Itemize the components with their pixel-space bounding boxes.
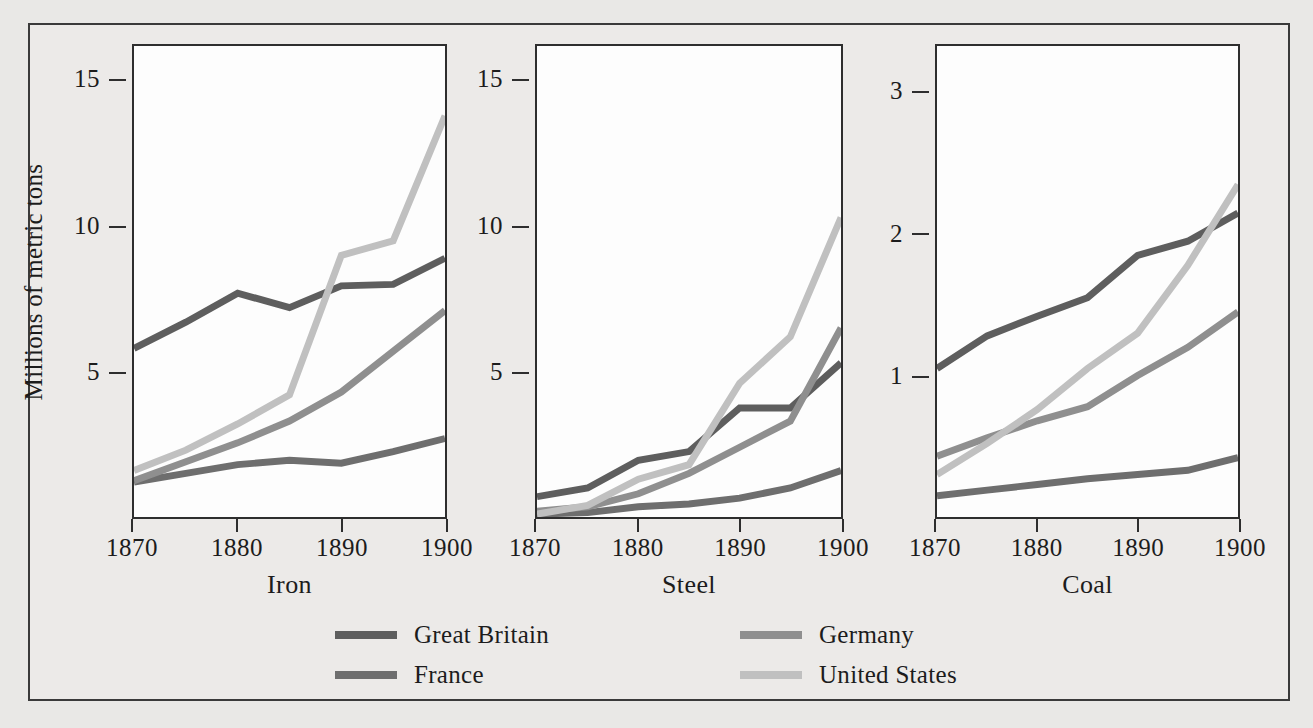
- x-tick-mark: [637, 519, 639, 532]
- x-tick-mark: [236, 519, 238, 532]
- x-tick-label: 1900: [421, 534, 473, 562]
- legend-swatch-germany: [740, 631, 802, 639]
- legend-swatch-france: [335, 671, 397, 679]
- panel-title-coal: Coal: [935, 570, 1240, 600]
- x-axis-ticks-iron: [132, 519, 447, 533]
- legend-column-1: Great BritainFrance: [335, 615, 549, 695]
- y-tick-label: 10: [74, 212, 126, 240]
- figure-panel: Millions of metric tons 5101518701880189…: [28, 23, 1290, 701]
- x-tick-mark: [534, 519, 536, 532]
- line-france: [937, 458, 1238, 496]
- y-tick-label: 3: [890, 77, 929, 105]
- x-tick-label: 1870: [909, 534, 961, 562]
- legend-swatch-united-states: [740, 671, 802, 679]
- y-axis-ticks-steel: 51015: [459, 44, 529, 519]
- panel-group: 510151870188018901900Iron510151870188018…: [30, 25, 1288, 585]
- line-germany: [937, 312, 1238, 456]
- legend-label: Germany: [819, 621, 914, 649]
- chart-panel-iron: 510151870188018901900Iron: [132, 25, 447, 585]
- legend-item-france[interactable]: France: [335, 655, 549, 695]
- x-tick-mark: [341, 519, 343, 532]
- legend-column-2: GermanyUnited States: [740, 615, 957, 695]
- x-tick-label: 1900: [1214, 534, 1266, 562]
- legend-item-great-britain[interactable]: Great Britain: [335, 615, 549, 655]
- x-tick-mark: [934, 519, 936, 532]
- y-tick-label: 5: [490, 358, 529, 386]
- panel-title-steel: Steel: [535, 570, 843, 600]
- x-tick-label: 1880: [612, 534, 664, 562]
- legend-label: France: [414, 661, 484, 689]
- y-tick-label: 10: [477, 212, 529, 240]
- legend-item-germany[interactable]: Germany: [740, 615, 957, 655]
- x-tick-mark: [1239, 519, 1241, 532]
- legend-swatch-great-britain: [335, 631, 397, 639]
- chart-panel-coal: 1231870188018901900Coal: [935, 25, 1240, 585]
- plot-area-coal: [935, 44, 1240, 519]
- x-tick-label: 1890: [316, 534, 368, 562]
- x-tick-label: 1880: [211, 534, 263, 562]
- plot-area-iron: [132, 44, 447, 519]
- panel-title-iron: Iron: [132, 570, 447, 600]
- legend-label: United States: [819, 661, 957, 689]
- y-tick-label: 5: [87, 358, 126, 386]
- x-tick-label: 1880: [1011, 534, 1063, 562]
- legend-item-united-states[interactable]: United States: [740, 655, 957, 695]
- x-tick-mark: [131, 519, 133, 532]
- y-tick-label: 15: [477, 65, 529, 93]
- x-tick-label: 1870: [509, 534, 561, 562]
- x-axis-ticks-steel: [535, 519, 843, 533]
- y-axis-ticks-iron: 51015: [56, 44, 126, 519]
- plot-area-steel: [535, 44, 843, 519]
- y-tick-label: 15: [74, 65, 126, 93]
- x-tick-mark: [739, 519, 741, 532]
- x-tick-mark: [446, 519, 448, 532]
- x-tick-mark: [1036, 519, 1038, 532]
- y-tick-label: 2: [890, 220, 929, 248]
- x-tick-label: 1870: [106, 534, 158, 562]
- line-great-britain: [134, 258, 445, 348]
- chart-panel-steel: 510151870188018901900Steel: [535, 25, 843, 585]
- x-tick-label: 1890: [714, 534, 766, 562]
- y-axis-ticks-coal: 123: [859, 44, 929, 519]
- x-tick-label: 1900: [817, 534, 869, 562]
- x-tick-mark: [842, 519, 844, 532]
- line-united-states: [937, 185, 1238, 475]
- x-tick-mark: [1137, 519, 1139, 532]
- y-tick-label: 1: [890, 362, 929, 390]
- chart-legend: Great BritainFranceGermanyUnited States: [30, 615, 1288, 695]
- x-axis-ticks-coal: [935, 519, 1240, 533]
- x-tick-label: 1890: [1112, 534, 1164, 562]
- legend-label: Great Britain: [414, 621, 549, 649]
